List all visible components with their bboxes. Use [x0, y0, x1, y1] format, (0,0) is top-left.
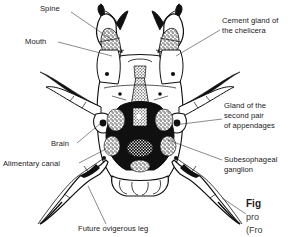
caption-line2-fragment: pro — [246, 212, 259, 222]
caption-title-fragment: Fig — [246, 198, 261, 209]
label-spine: Spine — [40, 4, 60, 13]
label-cement-gland-line1: Cement gland of — [222, 16, 279, 25]
anatomical-diagram: Spine Mouth Cement gland of the chelicer… — [0, 0, 288, 237]
right-gland-lobe — [155, 109, 173, 131]
label-gland-second-pair-line2: second pair — [224, 111, 264, 120]
label-gland-second-pair-line3: of appendages — [224, 121, 275, 130]
right-gland-node — [174, 120, 181, 127]
subesophageal-ganglion-shape — [127, 139, 153, 157]
label-mouth: Mouth — [25, 37, 46, 46]
label-cement-gland-line2: the chelicera — [222, 26, 266, 35]
left-gland-lobe — [107, 109, 125, 131]
label-gland-second-pair-line1: Gland of the — [224, 101, 266, 110]
label-alimentary-canal: Alimentary canal — [3, 159, 60, 168]
label-future-ovigerous-leg: Future ovigerous leg — [78, 224, 148, 233]
label-subesophageal-ganglion-line1: Subesophageal — [224, 155, 278, 164]
figure-canvas: Spine Mouth Cement gland of the chelicer… — [0, 0, 288, 237]
label-subesophageal-ganglion-line2: ganglion — [224, 165, 253, 174]
label-brain: Brain — [51, 139, 69, 148]
caption-line3-fragment: (Fro — [246, 225, 263, 235]
